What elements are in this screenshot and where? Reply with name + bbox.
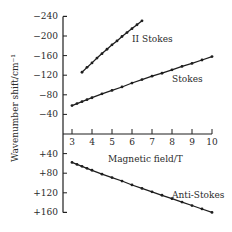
data-point: [91, 169, 94, 172]
data-point: [121, 180, 124, 183]
data-point: [191, 204, 194, 207]
data-point: [181, 65, 184, 68]
data-point: [96, 57, 99, 60]
axes: [63, 16, 212, 212]
x-tick-label: 7: [149, 137, 155, 147]
data-point: [191, 62, 194, 65]
data-point: [141, 187, 144, 190]
x-axis-title: Magnetic field/T: [108, 154, 183, 164]
x-tick-label: 10: [206, 137, 218, 147]
y-tick-label: −40: [39, 109, 58, 119]
data-point: [101, 92, 104, 95]
data-point: [111, 176, 114, 179]
data-point: [86, 66, 89, 69]
data-point: [131, 184, 134, 187]
data-point: [86, 98, 89, 101]
data-point: [141, 19, 144, 22]
x-tick-label: 3: [69, 137, 75, 147]
y-tick-label: +160: [33, 207, 58, 217]
data-point: [161, 72, 164, 75]
data-point: [211, 55, 214, 58]
data-point: [86, 167, 89, 170]
x-tick-label: 9: [189, 137, 195, 147]
chart: −240−200−160−120−80−40+40+80+120+160 345…: [0, 0, 232, 232]
x-axis-ticks: 345678910: [69, 129, 218, 147]
data-point: [71, 161, 74, 164]
data-point: [76, 102, 79, 105]
series-label-ii-stokes: II Stokes: [132, 34, 173, 44]
series-label-anti-stokes: Anti-Stokes: [171, 190, 225, 200]
y-axis-title: Wavenumber shift/cm⁻¹: [10, 54, 20, 162]
y-tick-label: −240: [33, 11, 58, 21]
data-point: [91, 62, 94, 65]
data-point: [171, 68, 174, 71]
x-tick-label: 6: [129, 137, 135, 147]
data-point: [106, 48, 109, 51]
data-point: [151, 75, 154, 78]
data-point: [121, 35, 124, 38]
data-point: [201, 208, 204, 211]
data-point: [111, 43, 114, 46]
data-point: [211, 211, 214, 214]
data-point: [101, 173, 104, 176]
series-label-stokes: Stokes: [172, 74, 203, 84]
data-point: [131, 82, 134, 85]
data-series: [71, 19, 214, 213]
data-point: [101, 52, 104, 55]
y-tick-label: −80: [39, 90, 58, 100]
y-tick-label: +80: [39, 168, 58, 178]
data-point: [111, 89, 114, 92]
data-point: [141, 78, 144, 81]
data-point: [201, 59, 204, 62]
y-tick-label: −200: [33, 31, 58, 41]
x-tick-label: 5: [109, 137, 115, 147]
y-tick-label: +120: [33, 188, 58, 198]
data-point: [116, 40, 119, 43]
series-anti-stokes: [71, 161, 214, 214]
data-point: [121, 86, 124, 89]
y-tick-label: −160: [33, 51, 58, 61]
x-tick-label: 8: [169, 137, 175, 147]
data-point: [91, 96, 94, 99]
data-point: [181, 201, 184, 204]
series-ii-stokes: [81, 19, 144, 73]
data-point: [161, 194, 164, 197]
data-point: [81, 71, 84, 74]
y-tick-label: +40: [39, 149, 58, 159]
data-point: [136, 23, 139, 26]
data-point: [81, 100, 84, 103]
data-point: [126, 31, 129, 34]
data-point: [151, 190, 154, 193]
y-tick-label: −120: [33, 70, 58, 80]
y-axis-ticks: −240−200−160−120−80−40+40+80+120+160: [33, 11, 67, 217]
data-point: [81, 165, 84, 168]
data-point: [71, 104, 74, 107]
x-tick-label: 4: [89, 137, 95, 147]
data-point: [76, 163, 79, 166]
data-point: [131, 27, 134, 30]
